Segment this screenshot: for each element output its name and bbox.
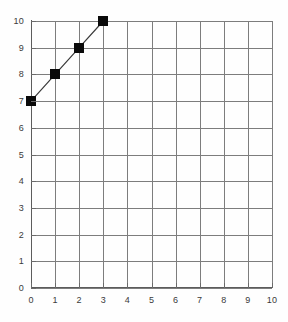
y-tick-8 [31, 74, 36, 75]
y-tick-label-7: 7 [4, 96, 24, 106]
x-tick-3 [103, 283, 104, 288]
x-tick-label-7: 7 [190, 295, 210, 305]
data-point-marker [50, 69, 60, 79]
y-tick-label-8: 8 [4, 69, 24, 79]
y-tick-label-0: 0 [4, 283, 24, 293]
y-tick-label-9: 9 [4, 43, 24, 53]
x-tick-label-5: 5 [142, 295, 162, 305]
x-tick-label-6: 6 [166, 295, 186, 305]
x-tick-5 [152, 283, 153, 288]
y-tick-label-5: 5 [4, 150, 24, 160]
gridline-vertical-10 [272, 21, 273, 288]
x-tick-label-4: 4 [117, 295, 137, 305]
x-tick-label-10: 10 [262, 295, 282, 305]
chart-figure: 012345678910 012345678910 [0, 0, 288, 322]
data-point-marker [98, 16, 108, 26]
gridline-horizontal-0 [31, 288, 272, 289]
x-tick-6 [176, 283, 177, 288]
y-tick-1 [31, 261, 36, 262]
x-tick-2 [79, 283, 80, 288]
x-tick-4 [127, 283, 128, 288]
data-point-marker [74, 43, 84, 53]
x-tick-label-2: 2 [69, 295, 89, 305]
y-tick-7 [31, 101, 36, 102]
y-tick-5 [31, 155, 36, 156]
x-tick-7 [200, 283, 201, 288]
y-tick-3 [31, 208, 36, 209]
y-tick-label-1: 1 [4, 256, 24, 266]
y-tick-6 [31, 128, 36, 129]
y-tick-0 [31, 288, 36, 289]
series-line [31, 21, 272, 288]
y-tick-label-6: 6 [4, 123, 24, 133]
y-tick-4 [31, 181, 36, 182]
y-tick-label-10: 10 [4, 16, 24, 26]
x-tick-label-0: 0 [21, 295, 41, 305]
y-tick-label-4: 4 [4, 176, 24, 186]
x-tick-9 [248, 283, 249, 288]
x-tick-10 [272, 283, 273, 288]
series-polyline [31, 21, 103, 101]
plot-area [31, 21, 272, 288]
y-tick-label-3: 3 [4, 203, 24, 213]
x-tick-label-8: 8 [214, 295, 234, 305]
x-tick-1 [55, 283, 56, 288]
x-tick-label-3: 3 [93, 295, 113, 305]
x-tick-label-1: 1 [45, 295, 65, 305]
y-tick-10 [31, 21, 36, 22]
y-tick-2 [31, 235, 36, 236]
x-tick-label-9: 9 [238, 295, 258, 305]
x-tick-8 [224, 283, 225, 288]
y-tick-9 [31, 48, 36, 49]
y-tick-label-2: 2 [4, 230, 24, 240]
